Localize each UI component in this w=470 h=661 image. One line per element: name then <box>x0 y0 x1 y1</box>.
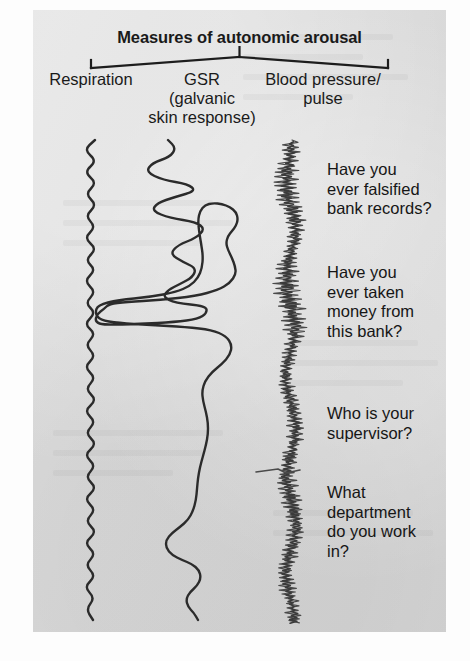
question-item: Have you ever taken money from this bank… <box>327 263 414 341</box>
question-item: Have you ever falsified bank records? <box>327 160 432 219</box>
question-item: What department do you work in? <box>327 483 416 561</box>
question-item: Who is your supervisor? <box>327 404 414 443</box>
measure-label-gsr: GSR (galvanic skin response) <box>147 70 257 127</box>
bracket-connector <box>33 46 446 72</box>
measure-label-blood-pressure: Blood pressure/ pulse <box>253 70 393 108</box>
measure-label-respiration: Respiration <box>36 70 146 89</box>
figure-title: Measures of autonomic arousal <box>33 28 446 47</box>
